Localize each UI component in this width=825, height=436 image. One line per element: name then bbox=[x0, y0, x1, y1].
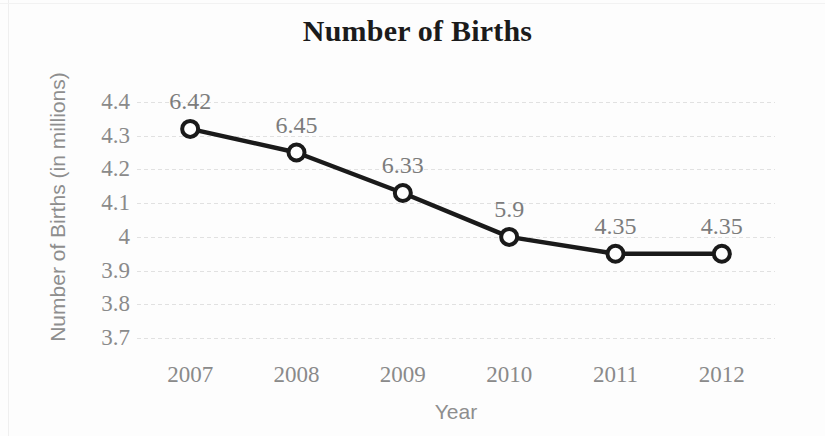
y-tick-label: 4.2 bbox=[70, 156, 130, 182]
x-tick-label: 2011 bbox=[556, 362, 676, 388]
x-tick-label: 2012 bbox=[662, 362, 782, 388]
data-point-marker bbox=[395, 185, 411, 201]
x-axis-tick-labels: 200720082009201020112012 bbox=[137, 362, 775, 394]
series-line bbox=[190, 129, 722, 254]
x-tick-label: 2007 bbox=[130, 362, 250, 388]
plot-area: 6.426.456.335.94.354.35 bbox=[137, 85, 775, 355]
data-point-marker bbox=[608, 246, 624, 262]
x-tick-label: 2008 bbox=[237, 362, 357, 388]
x-tick-label: 2009 bbox=[343, 362, 463, 388]
y-tick-label: 3.8 bbox=[70, 291, 130, 317]
chart-page: Number of Births 4.44.34.24.143.93.83.7 … bbox=[0, 0, 825, 436]
x-tick-label: 2010 bbox=[449, 362, 569, 388]
y-tick-label: 3.9 bbox=[70, 258, 130, 284]
y-tick-label: 4.4 bbox=[70, 89, 130, 115]
scan-edge-left bbox=[8, 0, 9, 436]
data-point-marker bbox=[714, 246, 730, 262]
scan-edge-top bbox=[0, 3, 825, 4]
data-point-marker bbox=[182, 121, 198, 137]
y-tick-label: 4.1 bbox=[70, 190, 130, 216]
y-tick-label: 4 bbox=[70, 224, 130, 250]
data-point-marker bbox=[501, 229, 517, 245]
y-tick-label: 4.3 bbox=[70, 123, 130, 149]
y-axis-tick-labels: 4.44.34.24.143.93.83.7 bbox=[62, 85, 130, 355]
x-axis-title: Year bbox=[137, 400, 775, 424]
chart-title: Number of Births bbox=[0, 14, 825, 48]
y-tick-label: 3.7 bbox=[70, 325, 130, 351]
line-series bbox=[137, 85, 775, 355]
y-axis-title: Number of Births (in millions) bbox=[46, 47, 70, 367]
data-point-marker bbox=[289, 145, 305, 161]
